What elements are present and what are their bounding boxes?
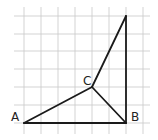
label-c: C xyxy=(83,74,91,88)
geometry-diagram: A B C xyxy=(0,0,158,140)
label-a: A xyxy=(11,110,20,124)
label-b: B xyxy=(131,110,139,124)
grid xyxy=(14,7,150,134)
